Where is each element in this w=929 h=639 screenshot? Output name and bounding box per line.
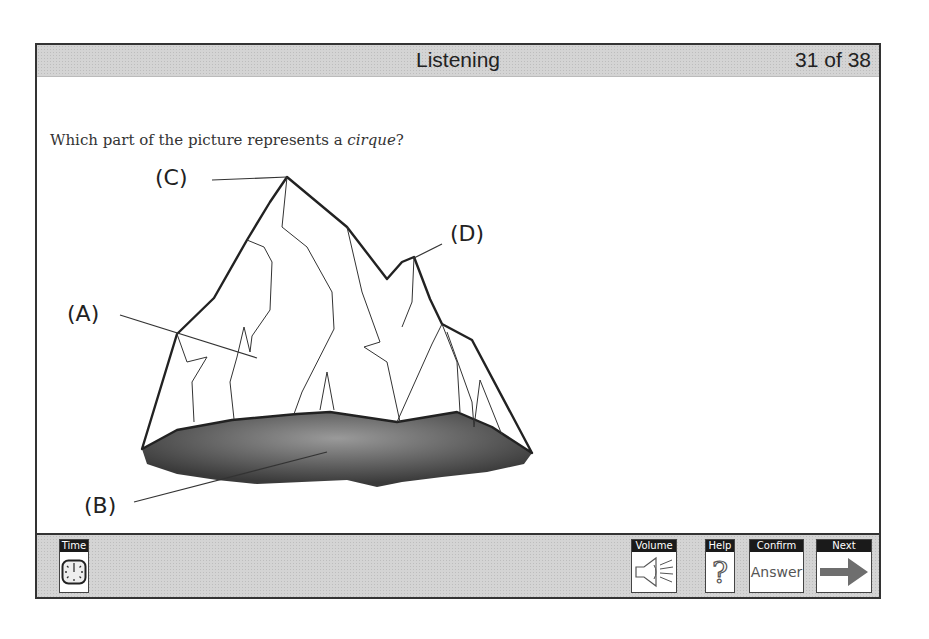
mountain-body [142, 177, 532, 453]
time-button[interactable]: Time [59, 539, 89, 593]
option-label-b: (B) [84, 493, 116, 518]
clock-icon [61, 559, 87, 585]
mountain-illustration [37, 45, 883, 535]
speaker-icon [632, 553, 676, 591]
option-label-c: (C) [155, 165, 188, 190]
test-window: Listening 31 of 38 Which part of the pic… [35, 43, 881, 599]
question-mark-icon: ? [712, 555, 728, 590]
option-label-d: (D) [450, 221, 484, 246]
bottom-toolbar: Time Volume [37, 533, 879, 597]
next-button[interactable]: Next [816, 539, 872, 593]
help-caption: Help [706, 540, 734, 552]
volume-button[interactable]: Volume [631, 539, 677, 593]
arrow-right-icon [818, 555, 870, 589]
next-caption: Next [817, 540, 871, 552]
time-caption: Time [60, 540, 88, 552]
option-label-a: (A) [67, 301, 99, 326]
help-button[interactable]: Help ? [705, 539, 735, 593]
volume-caption: Volume [632, 540, 676, 552]
confirm-caption: Confirm [750, 540, 803, 552]
confirm-answer-button[interactable]: Confirm Answer [749, 539, 804, 593]
answer-label: Answer [751, 564, 803, 580]
